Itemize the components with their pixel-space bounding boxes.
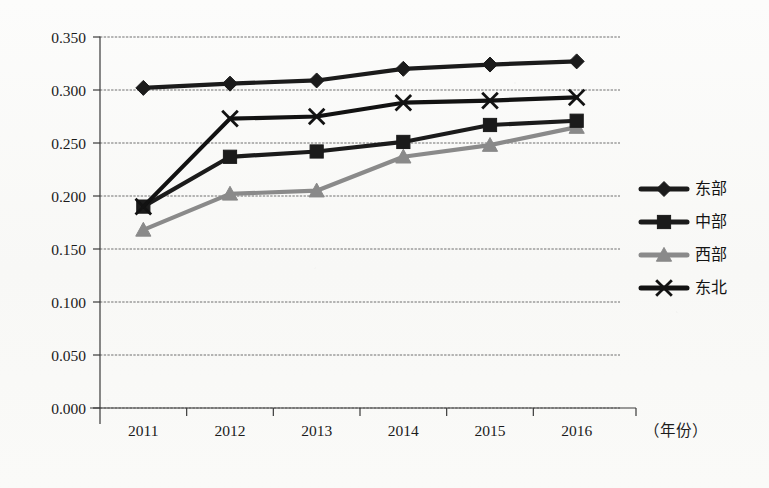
y-tick-label: 0.150	[51, 241, 86, 258]
series-line	[143, 97, 576, 206]
chart-legend: 东部中部西部东北	[641, 180, 727, 296]
y-tick-label: 0.250	[51, 135, 86, 152]
legend-item-东部[interactable]: 东部	[641, 180, 727, 197]
square-marker	[657, 215, 670, 228]
diamond-marker	[136, 80, 151, 95]
x-axis-label: （年份）	[644, 422, 708, 439]
x-axis-unit-label: （年份）	[644, 422, 708, 439]
series-中部	[137, 114, 584, 213]
x-tick-label: 2013	[301, 422, 332, 439]
legend-label: 中部	[695, 213, 727, 230]
legend-item-西部[interactable]: 西部	[641, 246, 727, 263]
chart-canvas: 0.0000.0500.1000.1500.2000.2500.3000.350…	[0, 0, 769, 488]
legend-item-中部[interactable]: 中部	[641, 213, 727, 230]
x-tick-label: 2012	[215, 422, 246, 439]
series-西部	[136, 120, 585, 237]
gridlines	[100, 37, 620, 408]
diamond-marker	[657, 182, 672, 197]
axis-lines	[90, 37, 636, 425]
y-tick-label: 0.350	[51, 29, 86, 46]
square-marker	[570, 114, 583, 127]
square-marker	[397, 135, 410, 148]
diamond-marker	[223, 76, 238, 91]
diamond-marker	[396, 61, 411, 76]
legend-label: 东北	[695, 279, 727, 296]
square-marker	[483, 118, 496, 131]
series-东部	[136, 54, 584, 95]
square-marker	[310, 145, 323, 158]
y-tick-label: 0.300	[51, 82, 86, 99]
y-tick-label: 0.000	[51, 400, 86, 417]
diamond-marker	[309, 73, 324, 88]
y-axis-tick-labels: 0.0000.0500.1000.1500.2000.2500.3000.350	[51, 29, 100, 417]
diamond-marker	[569, 54, 584, 69]
legend-item-东北[interactable]: 东北	[641, 279, 727, 296]
square-marker	[223, 150, 236, 163]
x-tick-label: 2016	[561, 422, 592, 439]
y-tick-label: 0.050	[51, 347, 86, 364]
x-tick-label: 2011	[128, 422, 158, 439]
x-tick-label: 2015	[475, 422, 506, 439]
y-tick-label: 0.100	[51, 294, 86, 311]
x-axis-tick-labels: 201120122013201420152016	[128, 408, 636, 439]
line-chart: 0.0000.0500.1000.1500.2000.2500.3000.350…	[0, 0, 769, 488]
legend-label: 东部	[695, 180, 727, 197]
series-line	[143, 61, 576, 87]
y-tick-label: 0.200	[51, 188, 86, 205]
legend-label: 西部	[695, 246, 727, 263]
diamond-marker	[483, 57, 498, 72]
x-tick-label: 2014	[388, 422, 419, 439]
data-series	[136, 54, 585, 236]
series-line	[143, 121, 576, 207]
